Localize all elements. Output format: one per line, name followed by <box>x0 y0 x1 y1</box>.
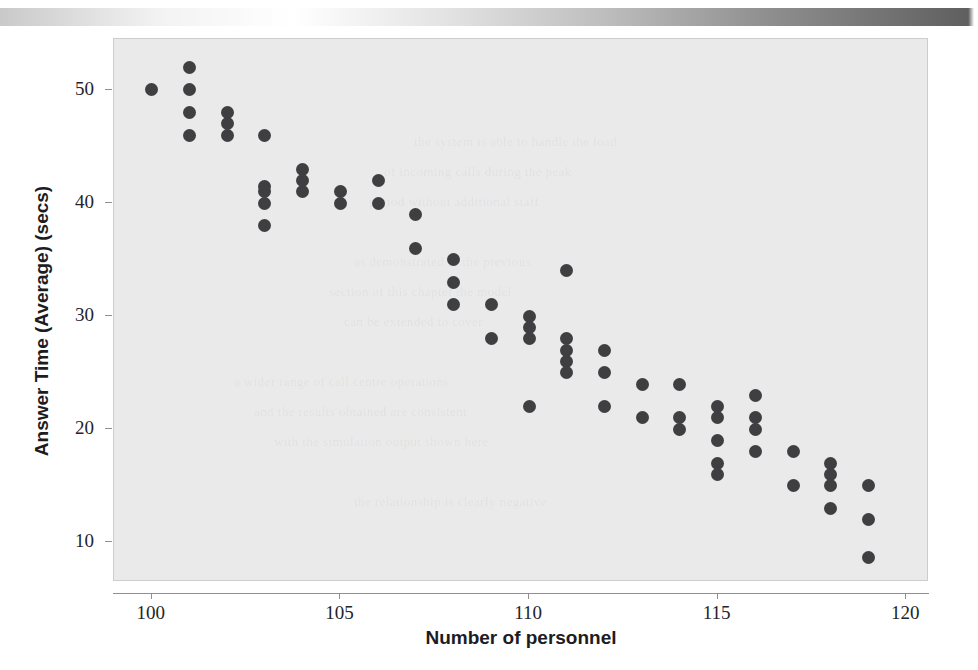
ghost-text: can be extended to cover <box>344 314 483 330</box>
data-point <box>824 479 837 492</box>
data-point <box>523 400 536 413</box>
data-point <box>749 423 762 436</box>
data-point <box>862 479 875 492</box>
ghost-text: section of this chapter the model <box>329 284 512 300</box>
x-tick <box>151 593 152 599</box>
data-point <box>862 551 875 564</box>
ghost-text: of incoming calls during the peak <box>384 164 572 180</box>
y-tick <box>105 315 112 316</box>
ghost-text: period without additional staff <box>369 194 539 210</box>
x-axis-line <box>113 593 929 594</box>
x-tick-label: 100 <box>136 602 165 624</box>
data-point <box>824 502 837 515</box>
data-point <box>409 208 422 221</box>
data-point <box>258 197 271 210</box>
ghost-text: with the simulation output shown here <box>274 434 488 450</box>
x-tick <box>339 593 340 599</box>
ghost-text: a wider range of call centre operations <box>234 374 449 390</box>
data-point <box>598 400 611 413</box>
data-point <box>749 389 762 402</box>
scan-edge-gradient-bar <box>0 8 978 26</box>
data-point <box>560 264 573 277</box>
x-tick <box>528 593 529 599</box>
data-point <box>636 378 649 391</box>
page-root: the system is able to handle the loadof … <box>0 0 978 670</box>
data-point <box>673 423 686 436</box>
y-tick-label: 40 <box>75 191 94 213</box>
data-point <box>711 468 724 481</box>
data-point <box>598 344 611 357</box>
x-tick-label: 105 <box>325 602 354 624</box>
data-point <box>749 445 762 458</box>
x-axis-label: Number of personnel <box>113 627 929 649</box>
data-point <box>334 197 347 210</box>
data-point <box>447 276 460 289</box>
data-point <box>372 197 385 210</box>
data-point <box>372 174 385 187</box>
x-tick <box>717 593 718 599</box>
ghost-text: the system is able to handle the load <box>414 134 617 150</box>
data-point <box>409 242 422 255</box>
data-point <box>598 366 611 379</box>
data-point <box>296 185 309 198</box>
data-point <box>523 332 536 345</box>
y-tick-label: 20 <box>75 417 94 439</box>
data-point <box>560 366 573 379</box>
data-point <box>485 298 498 311</box>
ghost-text: the relationship is clearly negative <box>354 494 547 510</box>
data-point <box>183 129 196 142</box>
data-point <box>711 411 724 424</box>
data-point <box>221 129 234 142</box>
plot-area: the system is able to handle the loadof … <box>113 38 928 581</box>
data-point <box>145 83 158 96</box>
y-tick <box>105 202 112 203</box>
y-tick <box>105 541 112 542</box>
y-tick <box>105 428 112 429</box>
x-tick-label: 120 <box>891 602 920 624</box>
data-point <box>787 479 800 492</box>
data-point <box>258 180 271 193</box>
data-point <box>258 219 271 232</box>
data-point <box>787 445 800 458</box>
x-tick-label: 115 <box>703 602 731 624</box>
ghost-text: and the results obtained are consistent <box>254 404 467 420</box>
data-point <box>183 106 196 119</box>
data-point <box>636 411 649 424</box>
y-tick-label: 30 <box>75 304 94 326</box>
data-point <box>862 513 875 526</box>
y-tick-label: 10 <box>75 530 94 552</box>
y-tick <box>105 89 112 90</box>
y-axis-label: Answer Time (Average) (secs) <box>31 111 53 531</box>
data-point <box>183 61 196 74</box>
scatter-plot-figure: the system is able to handle the loadof … <box>0 26 978 670</box>
data-point <box>673 378 686 391</box>
data-point <box>258 129 271 142</box>
data-point <box>485 332 498 345</box>
x-tick <box>905 593 906 599</box>
data-point <box>447 298 460 311</box>
data-point <box>711 434 724 447</box>
data-point <box>183 83 196 96</box>
x-tick-label: 110 <box>514 602 542 624</box>
y-tick-label: 50 <box>75 78 94 100</box>
ghost-text: as demonstrated in the previous <box>354 254 531 270</box>
